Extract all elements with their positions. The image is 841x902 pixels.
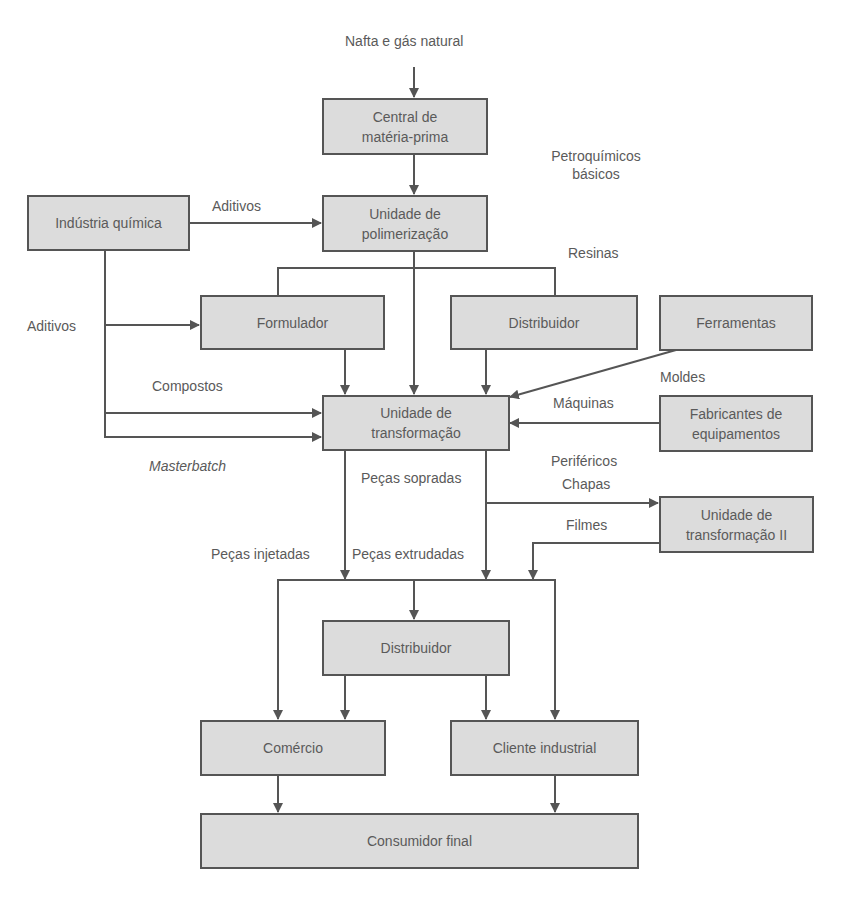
resinas-bracket: [278, 268, 555, 295]
node-label: Distribuidor: [509, 313, 580, 333]
node-industria-quimica: Indústria química: [27, 195, 190, 251]
node-distribuidor-bottom: Distribuidor: [322, 620, 510, 676]
node-label: Central de: [362, 107, 448, 127]
node-central-materia-prima: Central dematéria-prima: [322, 98, 488, 155]
node-distribuidor-top: Distribuidor: [450, 295, 638, 350]
label-line: Petroquímicos: [540, 147, 652, 165]
node-unidade-transformacao: Unidade detransformação: [322, 395, 510, 451]
node-label: transformação: [371, 423, 460, 443]
node-label: matéria-prima: [362, 127, 448, 147]
node-formulador: Formulador: [200, 295, 385, 350]
label-masterbatch: Masterbatch: [149, 457, 226, 475]
node-label: polimerização: [362, 224, 448, 244]
label-resinas: Resinas: [568, 244, 619, 262]
label-pecas-sopradas: Peças sopradas: [361, 469, 461, 487]
node-label: Consumidor final: [367, 831, 472, 851]
node-label: Distribuidor: [381, 638, 452, 658]
label-perifericos: Periféricos: [551, 452, 617, 470]
node-ferramentas: Ferramentas: [659, 295, 813, 351]
plastics-production-chain-diagram: Central dematéria-prima Unidade depolime…: [0, 0, 841, 902]
label-nafta-gas-natural: Nafta e gás natural: [345, 32, 463, 50]
node-label: Unidade de: [686, 505, 787, 525]
node-unidade-transformacao-ii: Unidade detransformação II: [659, 496, 814, 553]
node-consumidor-final: Consumidor final: [200, 813, 639, 869]
label-line: básicos: [540, 165, 652, 183]
arrow-moldes: [510, 350, 676, 397]
label-compostos: Compostos: [152, 377, 223, 395]
label-chapas: Chapas: [562, 475, 610, 493]
node-label: Ferramentas: [696, 313, 775, 333]
node-label: equipamentos: [690, 424, 783, 444]
node-label: Formulador: [257, 313, 329, 333]
label-moldes: Moldes: [660, 368, 705, 386]
label-maquinas: Máquinas: [553, 394, 614, 412]
node-comercio: Comércio: [200, 720, 386, 776]
node-cliente-industrial: Cliente industrial: [450, 720, 639, 776]
label-aditivos-left: Aditivos: [27, 317, 76, 335]
node-label: Indústria química: [55, 213, 162, 233]
node-label: Unidade de: [371, 403, 460, 423]
node-fabricantes-equipamentos: Fabricantes deequipamentos: [659, 395, 813, 452]
label-petroquimicos: Petroquímicos básicos: [540, 147, 652, 183]
label-filmes: Filmes: [566, 516, 607, 534]
arrow-filmes: [533, 543, 659, 579]
node-label: Fabricantes de: [690, 404, 783, 424]
label-pecas-injetadas: Peças injetadas: [211, 545, 310, 563]
node-unidade-polimerizacao: Unidade depolimerização: [322, 195, 488, 252]
node-label: transformação II: [686, 525, 787, 545]
node-label: Comércio: [263, 738, 323, 758]
label-pecas-extrudadas: Peças extrudadas: [352, 545, 464, 563]
node-label: Cliente industrial: [493, 738, 597, 758]
label-aditivos-top: Aditivos: [212, 197, 261, 215]
node-label: Unidade de: [362, 204, 448, 224]
